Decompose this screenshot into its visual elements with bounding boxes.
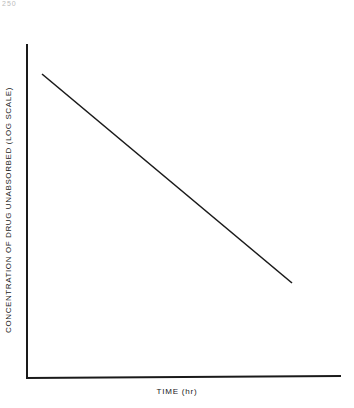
x-axis — [26, 376, 341, 378]
y-axis-label: CONCENTRATION OF DRUG UNABSORBED (LOG SC… — [4, 87, 13, 333]
data-line — [42, 74, 292, 283]
chart-plot-area — [0, 0, 354, 408]
x-axis-label: TIME (hr) — [0, 387, 354, 396]
